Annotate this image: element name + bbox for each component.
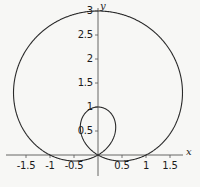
y-tick-label-1-5: 1.5 — [62, 77, 93, 88]
x-tick-label-0-5: 0.5 — [108, 160, 136, 171]
polar-plot-figure: -1.5 -1 -0.5 0.5 1 1.5 3 2.5 2 1.5 1 0.5… — [0, 0, 200, 187]
x-tick-label-neg1-5: -1.5 — [10, 160, 42, 171]
y-axis-label: y — [100, 0, 106, 11]
y-tick-label-2: 2 — [62, 53, 93, 64]
y-tick-label-1: 1 — [62, 101, 93, 112]
x-tick-label-1-5: 1.5 — [156, 160, 184, 171]
x-tick-label-neg1: -1 — [41, 160, 59, 171]
y-tick-label-0-5: 0.5 — [62, 125, 93, 136]
x-tick-label-neg0-5: -0.5 — [58, 160, 90, 171]
plot-canvas — [0, 0, 200, 187]
x-axis-label: x — [186, 146, 192, 157]
y-tick-label-2-5: 2.5 — [62, 29, 93, 40]
x-tick-label-1: 1 — [139, 160, 153, 171]
y-tick-label-3: 3 — [62, 5, 93, 16]
